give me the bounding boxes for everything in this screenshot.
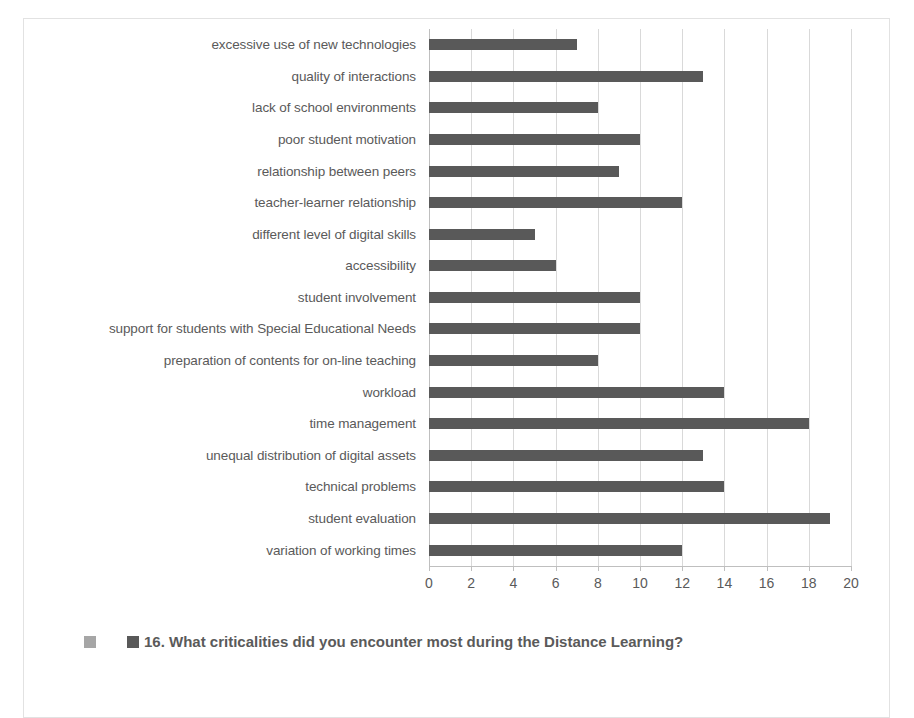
x-tick-mark-20 [851, 566, 852, 571]
x-tick-label-2: 2 [467, 575, 475, 591]
y-axis-label: quality of interactions [24, 61, 424, 93]
legend-swatch-primary-icon [127, 636, 139, 648]
x-tick-mark-12 [682, 566, 683, 571]
bar-row [429, 92, 851, 124]
x-tick-mark-8 [598, 566, 599, 571]
bar-row [429, 503, 851, 535]
y-axis-label: technical problems [24, 471, 424, 503]
bar [429, 545, 682, 556]
y-axis-label: lack of school environments [24, 92, 424, 124]
bar [429, 229, 535, 240]
x-tick-mark-2 [471, 566, 472, 571]
bar [429, 355, 598, 366]
bar [429, 71, 703, 82]
y-axis-category-labels: excessive use of new technologiesquality… [24, 29, 424, 566]
x-tick-label-14: 14 [717, 575, 733, 591]
bar-row [429, 250, 851, 282]
legend-swatch-secondary-icon [84, 636, 96, 648]
bar-row [429, 187, 851, 219]
x-tick-label-6: 6 [552, 575, 560, 591]
y-axis-label: time management [24, 408, 424, 440]
y-axis-label: student involvement [24, 282, 424, 314]
bar [429, 102, 598, 113]
bar-row [429, 61, 851, 93]
x-tick-mark-18 [809, 566, 810, 571]
x-tick-mark-4 [513, 566, 514, 571]
x-tick-label-16: 16 [759, 575, 775, 591]
y-axis-label: workload [24, 376, 424, 408]
chart-frame: excessive use of new technologiesquality… [23, 18, 890, 718]
bar [429, 481, 724, 492]
gridline-20 [851, 29, 852, 566]
bar [429, 513, 830, 524]
bar-row [429, 408, 851, 440]
x-tick-mark-0 [429, 566, 430, 571]
y-axis-label: variation of working times [24, 534, 424, 566]
y-axis-label: accessibility [24, 250, 424, 282]
y-axis-label: different level of digital skills [24, 218, 424, 250]
bar-row [429, 155, 851, 187]
y-axis-label: excessive use of new technologies [24, 29, 424, 61]
bar [429, 418, 809, 429]
bar-row [429, 376, 851, 408]
x-tick-label-8: 8 [594, 575, 602, 591]
y-axis-label: teacher-learner relationship [24, 187, 424, 219]
bar-row [429, 534, 851, 566]
x-axis-tick-labels: 02468101214161820 [429, 575, 852, 599]
y-axis-label: student evaluation [24, 503, 424, 535]
bar-row [429, 124, 851, 156]
x-tick-mark-16 [767, 566, 768, 571]
bar-row [429, 218, 851, 250]
bar-row [429, 440, 851, 472]
legend-label: 16. What criticalities did you encounter… [144, 633, 683, 650]
bar [429, 450, 703, 461]
y-axis-label: relationship between peers [24, 155, 424, 187]
bar [429, 292, 640, 303]
x-tick-label-10: 10 [632, 575, 648, 591]
x-tick-mark-14 [724, 566, 725, 571]
bar [429, 197, 682, 208]
bar [429, 134, 640, 145]
x-tick-label-12: 12 [674, 575, 690, 591]
bar [429, 39, 577, 50]
bar-row [429, 282, 851, 314]
chart-legend: 16. What criticalities did you encounter… [84, 633, 884, 650]
bar-rows [429, 29, 851, 566]
x-tick-mark-10 [640, 566, 641, 571]
bar-row [429, 313, 851, 345]
bar-row [429, 471, 851, 503]
bar-row [429, 29, 851, 61]
x-tick-label-4: 4 [509, 575, 517, 591]
bar [429, 387, 724, 398]
y-axis-label: preparation of contents for on-line teac… [24, 345, 424, 377]
x-tick-label-18: 18 [801, 575, 817, 591]
bar [429, 323, 640, 334]
y-axis-label: poor student motivation [24, 124, 424, 156]
bar [429, 166, 619, 177]
x-tick-label-20: 20 [843, 575, 859, 591]
bar [429, 260, 556, 271]
plot-area [429, 29, 851, 566]
y-axis-label: support for students with Special Educat… [24, 313, 424, 345]
x-tick-label-0: 0 [425, 575, 433, 591]
bar-row [429, 345, 851, 377]
x-tick-mark-6 [556, 566, 557, 571]
y-axis-label: unequal distribution of digital assets [24, 440, 424, 472]
